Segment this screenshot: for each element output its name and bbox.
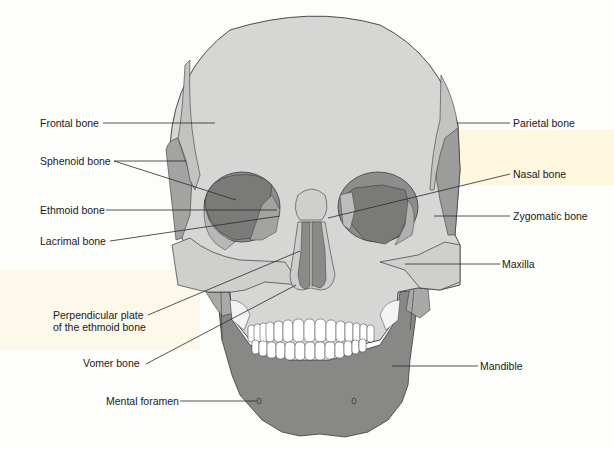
label-nasal-bone: Nasal bone [513, 168, 566, 180]
label-perpendicular-plate-line2: of the ethmoid bone [53, 321, 146, 333]
skull-illustration [0, 0, 614, 449]
nasal-bone-shape [295, 189, 326, 220]
label-frontal-bone: Frontal bone [40, 117, 99, 129]
label-sphenoid-bone: Sphenoid bone [40, 155, 111, 167]
label-maxilla: Maxilla [502, 258, 535, 270]
label-perpendicular-plate-line1: Perpendicular plate [53, 309, 143, 321]
label-zygomatic-bone: Zygomatic bone [513, 210, 588, 222]
label-parietal-bone: Parietal bone [513, 117, 575, 129]
label-vomer-bone: Vomer bone [83, 357, 140, 369]
label-lacrimal-bone: Lacrimal bone [40, 235, 106, 247]
label-mental-foramen: Mental foramen [106, 395, 179, 407]
label-ethmoid-bone: Ethmoid bone [40, 204, 105, 216]
label-mandible: Mandible [480, 360, 523, 372]
skull-diagram: Frontal bone Sphenoid bone Ethmoid bone … [0, 0, 614, 449]
